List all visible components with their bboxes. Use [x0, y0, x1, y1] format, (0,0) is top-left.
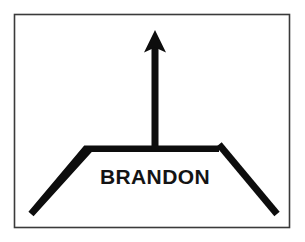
- destination-label: BRANDON: [100, 165, 210, 188]
- sign-diagram-canvas: BRANDON: [0, 0, 305, 242]
- arrow-shaft: [152, 47, 159, 150]
- road-sign-figure: BRANDON: [0, 0, 305, 242]
